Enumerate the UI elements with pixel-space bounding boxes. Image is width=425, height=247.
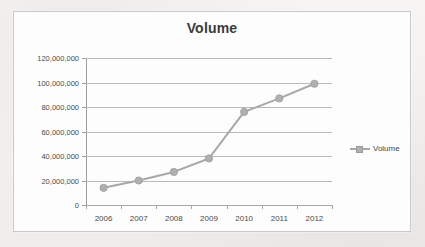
legend-marker-icon bbox=[350, 144, 370, 153]
data-point bbox=[276, 95, 283, 102]
x-axis-tick-label: 2010 bbox=[235, 214, 253, 223]
page-background: Volume 020,000,00040,000,00060,000,00080… bbox=[0, 0, 425, 247]
x-axis-tick bbox=[332, 205, 333, 209]
y-axis-tick-label: 120,000,000 bbox=[37, 54, 79, 63]
x-axis-tick bbox=[86, 205, 87, 209]
data-point bbox=[100, 184, 107, 191]
x-axis-tick-label: 2012 bbox=[306, 214, 324, 223]
data-point bbox=[205, 155, 212, 162]
x-axis-tick-label: 2008 bbox=[165, 214, 183, 223]
y-axis-tick-label: 100,000,000 bbox=[37, 78, 79, 87]
x-axis-tick bbox=[297, 205, 298, 209]
series-volume bbox=[86, 58, 332, 205]
data-point bbox=[311, 80, 318, 87]
gridline bbox=[86, 205, 332, 206]
x-axis-tick bbox=[156, 205, 157, 209]
legend-square-icon bbox=[356, 146, 363, 153]
x-axis-tick bbox=[191, 205, 192, 209]
chart-title: Volume bbox=[14, 20, 410, 36]
x-axis-tick bbox=[262, 205, 263, 209]
x-axis-tick bbox=[227, 205, 228, 209]
x-axis-tick-label: 2006 bbox=[95, 214, 113, 223]
legend-label-volume: Volume bbox=[373, 144, 400, 153]
x-axis-tick-label: 2011 bbox=[271, 214, 288, 223]
y-axis-tick-label: 0 bbox=[75, 201, 79, 210]
data-point bbox=[241, 108, 248, 115]
y-axis-tick-label: 60,000,000 bbox=[41, 127, 79, 136]
legend: Volume bbox=[350, 144, 400, 153]
x-axis-tick-label: 2009 bbox=[200, 214, 218, 223]
plot-area: 020,000,00040,000,00060,000,00080,000,00… bbox=[86, 58, 332, 205]
y-axis-tick-label: 40,000,000 bbox=[41, 152, 79, 161]
data-point bbox=[135, 177, 142, 184]
x-axis-tick bbox=[121, 205, 122, 209]
y-axis-tick-label: 80,000,000 bbox=[41, 103, 79, 112]
x-axis-tick-label: 2007 bbox=[130, 214, 148, 223]
chart-frame: Volume 020,000,00040,000,00060,000,00080… bbox=[13, 11, 411, 232]
data-point bbox=[170, 168, 177, 175]
y-axis-tick-label: 20,000,000 bbox=[41, 176, 79, 185]
